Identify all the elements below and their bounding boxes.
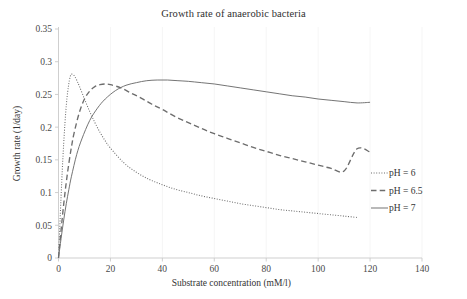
chart-legend: pH = 6pH = 6.5pH = 7 [371, 168, 423, 213]
x-tick-label: 0 [56, 264, 61, 274]
gridlines-group [110, 27, 422, 258]
y-tick-label: 0.35 [35, 24, 52, 34]
y-tick-label: 0.2 [40, 123, 52, 133]
legend-label: pH = 7 [389, 203, 416, 213]
x-tick-label: 40 [158, 264, 168, 274]
y-axis-ticks: 00.050.10.150.20.250.30.35 [35, 24, 58, 263]
x-tick-label: 120 [363, 264, 378, 274]
y-tick-label: 0 [47, 253, 52, 263]
x-tick-label: 140 [415, 264, 430, 274]
legend-label: pH = 6.5 [389, 186, 423, 196]
y-tick-label: 0.25 [35, 90, 52, 100]
x-axis-title: Substrate concentration (mM/l) [172, 278, 291, 289]
legend-label: pH = 6 [389, 168, 416, 178]
y-tick-label: 0.3 [40, 57, 52, 67]
y-tick-label: 0.1 [40, 188, 52, 198]
y-tick-label: 0.15 [35, 155, 52, 165]
chart-figure: Growth rate of anaerobic bacteria 00.050… [0, 0, 467, 299]
x-axis-ticks: 020406080100120140 [56, 258, 429, 274]
x-tick-label: 80 [261, 264, 271, 274]
x-tick-label: 60 [210, 264, 220, 274]
y-tick-label: 0.05 [35, 221, 52, 231]
x-tick-label: 100 [311, 264, 326, 274]
plot-area: 00.050.10.150.20.250.30.35 0204060801001… [0, 0, 467, 299]
y-axis-title: Growth rate (1/day) [12, 106, 23, 181]
x-tick-label: 20 [106, 264, 116, 274]
